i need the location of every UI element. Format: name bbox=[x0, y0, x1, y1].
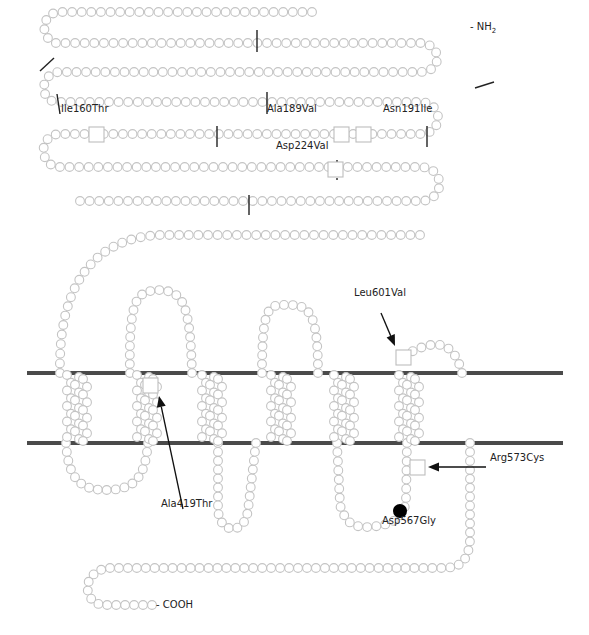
helix-residue bbox=[346, 437, 355, 446]
residue bbox=[194, 231, 203, 240]
residue bbox=[216, 68, 225, 77]
residue bbox=[82, 68, 91, 77]
residue bbox=[249, 98, 258, 107]
residue bbox=[419, 564, 428, 573]
residue bbox=[288, 8, 297, 17]
residue bbox=[40, 153, 49, 162]
residue bbox=[235, 68, 244, 77]
residue bbox=[238, 163, 247, 172]
residue bbox=[127, 315, 136, 324]
residue bbox=[97, 8, 106, 17]
residue bbox=[85, 197, 94, 206]
residue bbox=[118, 238, 127, 247]
residue bbox=[214, 492, 223, 501]
residue bbox=[313, 351, 322, 360]
residue bbox=[138, 290, 147, 299]
residue bbox=[114, 197, 123, 206]
residue bbox=[432, 121, 441, 130]
helix-residue bbox=[133, 433, 142, 442]
residue bbox=[224, 130, 233, 139]
residue bbox=[138, 465, 147, 474]
residue bbox=[148, 39, 157, 48]
residue bbox=[392, 197, 401, 206]
residue bbox=[271, 231, 280, 240]
residue bbox=[61, 39, 70, 48]
residue bbox=[466, 439, 475, 448]
residue bbox=[261, 231, 270, 240]
residue bbox=[139, 68, 148, 77]
residue bbox=[316, 197, 325, 206]
residue bbox=[287, 197, 296, 206]
residue bbox=[276, 564, 285, 573]
residue bbox=[267, 564, 276, 573]
residue bbox=[416, 39, 425, 48]
residue bbox=[335, 484, 344, 493]
residue bbox=[184, 231, 193, 240]
residue bbox=[350, 68, 359, 77]
residue bbox=[175, 231, 184, 240]
residue bbox=[168, 564, 177, 573]
residue bbox=[226, 68, 235, 77]
residue bbox=[267, 163, 276, 172]
residue bbox=[269, 8, 278, 17]
residue bbox=[243, 39, 252, 48]
residue bbox=[214, 465, 223, 474]
residue bbox=[418, 68, 427, 77]
topology-diagram bbox=[0, 0, 589, 635]
residue bbox=[276, 163, 285, 172]
residue bbox=[221, 8, 230, 17]
residue bbox=[205, 39, 214, 48]
residue bbox=[152, 163, 161, 172]
residue bbox=[93, 253, 102, 262]
residue bbox=[379, 68, 388, 77]
residue bbox=[466, 448, 475, 457]
residue bbox=[250, 8, 259, 17]
residue bbox=[116, 8, 125, 17]
residue bbox=[425, 41, 434, 50]
residue bbox=[249, 564, 258, 573]
residue bbox=[354, 522, 363, 531]
residue bbox=[119, 39, 128, 48]
residue bbox=[176, 39, 185, 48]
residue bbox=[458, 369, 467, 378]
residue bbox=[258, 98, 267, 107]
residue bbox=[214, 448, 223, 457]
variant-box-marker bbox=[356, 127, 371, 142]
residue bbox=[101, 247, 110, 256]
residue bbox=[373, 197, 382, 206]
residue bbox=[141, 564, 150, 573]
residue bbox=[354, 98, 363, 107]
residue bbox=[188, 369, 197, 378]
residue bbox=[75, 275, 84, 284]
residue bbox=[356, 564, 365, 573]
residue bbox=[142, 163, 151, 172]
residue bbox=[320, 130, 329, 139]
residue bbox=[67, 293, 76, 302]
residue bbox=[56, 349, 65, 358]
residue bbox=[121, 601, 130, 610]
residue bbox=[311, 39, 320, 48]
residue bbox=[382, 163, 391, 172]
residue bbox=[106, 8, 115, 17]
n-terminus-text: - NH bbox=[470, 21, 492, 32]
residue bbox=[209, 163, 218, 172]
residue bbox=[130, 601, 139, 610]
residue bbox=[125, 342, 134, 351]
residue bbox=[283, 68, 292, 77]
helix-residue bbox=[330, 433, 339, 442]
residue bbox=[466, 457, 475, 466]
residue bbox=[204, 231, 213, 240]
residue bbox=[141, 456, 150, 465]
residue bbox=[303, 564, 312, 573]
residue bbox=[147, 130, 156, 139]
residue bbox=[109, 130, 118, 139]
residue bbox=[191, 197, 200, 206]
residue bbox=[153, 98, 162, 107]
residue bbox=[80, 267, 89, 276]
residue bbox=[282, 130, 291, 139]
residue bbox=[165, 231, 174, 240]
residue bbox=[166, 130, 175, 139]
residue bbox=[183, 8, 192, 17]
residue bbox=[114, 98, 123, 107]
residue bbox=[258, 369, 267, 378]
